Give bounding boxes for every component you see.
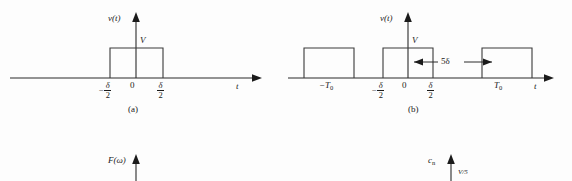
panel-a-left-edge-tick-label: − δ 2 bbox=[99, 81, 111, 99]
panel-c-graphics bbox=[0, 120, 286, 181]
panel-b-left-edge-tick-label: − δ 2 bbox=[372, 81, 384, 99]
panel-a-y-axis-label: v(t) bbox=[108, 14, 121, 23]
panel-b-amplitude-label: V bbox=[412, 36, 418, 45]
panel-b-left-edge-sign: − bbox=[372, 86, 377, 95]
panel-b-pulse-left bbox=[304, 48, 354, 78]
panel-b-x-axis-arrowhead bbox=[544, 74, 554, 82]
panel-c-spectrum: F(ω) bbox=[0, 120, 286, 181]
panel-b-dimension-arrow-right bbox=[483, 58, 492, 65]
panel-b-y-axis-label: v(t) bbox=[380, 14, 393, 23]
panel-b-left-edge-denominator: 2 bbox=[378, 91, 384, 100]
panel-c-y-axis-arrowhead bbox=[132, 154, 140, 164]
panel-c-y-axis-label: F(ω) bbox=[108, 156, 126, 165]
panel-a: v(t) V 0 t − δ 2 δ 2 (a) bbox=[0, 0, 286, 120]
panel-a-right-edge-numerator: δ bbox=[158, 81, 164, 90]
panel-b-caption: (b) bbox=[408, 105, 419, 114]
panel-b-right-edge-numerator: δ bbox=[428, 81, 434, 90]
panel-b-period-left-subscript: 0 bbox=[330, 84, 333, 91]
panel-b-dimension-arrow-left bbox=[414, 58, 423, 65]
panel-a-caption: (a) bbox=[128, 105, 138, 114]
panel-b-right-edge-denominator: 2 bbox=[427, 91, 433, 100]
panel-b-period-right-subscript: 0 bbox=[499, 84, 502, 91]
panel-a-left-edge-sign: − bbox=[99, 86, 104, 95]
panel-d-coefficients: cn V/5 bbox=[286, 120, 572, 181]
figure-root: v(t) V 0 t − δ 2 δ 2 (a) bbox=[0, 0, 572, 181]
panel-b-origin-label: 0 bbox=[402, 81, 407, 90]
panel-b: v(t) V 0 t −T0 T0 − δ 2 δ 2 bbox=[286, 0, 572, 120]
panel-a-left-edge-denominator: 2 bbox=[105, 91, 111, 100]
panel-b-right-edge-tick-label: δ 2 bbox=[427, 81, 434, 99]
panel-b-x-axis-label: t bbox=[534, 82, 537, 91]
panel-b-y-axis-arrowhead bbox=[404, 12, 412, 22]
panel-d-graphics bbox=[286, 120, 572, 181]
panel-b-period-left-text: −T bbox=[319, 80, 330, 90]
panel-d-y-axis-arrowhead bbox=[447, 154, 455, 164]
panel-b-period-left-label: −T0 bbox=[319, 81, 333, 91]
panel-a-right-edge-tick-label: δ 2 bbox=[157, 81, 164, 99]
panel-b-dimension-label: 5δ bbox=[441, 57, 450, 66]
panel-a-x-axis-arrowhead bbox=[252, 74, 262, 82]
panel-a-amplitude-label: V bbox=[140, 36, 146, 45]
panel-a-left-edge-numerator: δ bbox=[105, 81, 111, 90]
panel-a-x-axis-label: t bbox=[236, 82, 239, 91]
panel-b-pulse-right bbox=[482, 48, 532, 78]
panel-d-y-axis-label: cn bbox=[428, 156, 435, 166]
panel-a-right-edge-denominator: 2 bbox=[157, 91, 163, 100]
panel-b-graphics bbox=[286, 0, 572, 120]
panel-d-value-label: V/5 bbox=[458, 169, 468, 176]
panel-a-origin-label: 0 bbox=[130, 81, 135, 90]
panel-a-graphics bbox=[0, 0, 286, 120]
panel-b-left-edge-numerator: δ bbox=[378, 81, 384, 90]
panel-a-y-axis-arrowhead bbox=[132, 12, 140, 22]
panel-d-y-axis-label-subscript: n bbox=[432, 159, 435, 166]
panel-b-period-right-label: T0 bbox=[494, 81, 502, 91]
